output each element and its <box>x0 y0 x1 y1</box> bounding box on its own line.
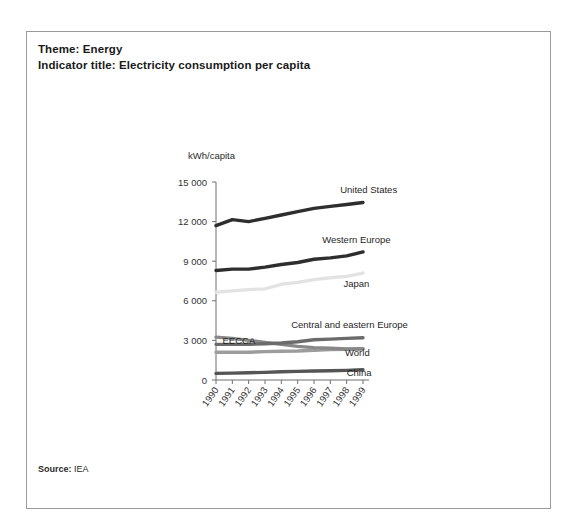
x-tick-label: 1996 <box>298 385 319 409</box>
figure-titles: Theme: Energy Indicator title: Electrici… <box>38 41 508 73</box>
x-tick-label: 1999 <box>347 385 368 409</box>
x-tick-label: 1990 <box>200 385 221 409</box>
y-tick-label: 3 000 <box>183 335 207 346</box>
series-label: Western Europe <box>322 234 390 245</box>
theme-line: Theme: Energy <box>38 41 508 57</box>
y-tick-label: 6 000 <box>183 295 207 306</box>
x-tick-label: 1992 <box>232 385 253 409</box>
series-line <box>216 202 363 225</box>
y-tick-label: 15 000 <box>178 177 207 188</box>
x-tick-label: 1998 <box>330 385 351 409</box>
series-line <box>216 370 363 374</box>
y-tick-label: 0 <box>202 375 207 386</box>
y-axis-unit-label: kWh/capita <box>188 150 236 161</box>
series-label: Japan <box>343 278 369 289</box>
series-label: China <box>347 367 373 378</box>
source-note: Source: IEA <box>38 464 89 474</box>
series-label: EECCA <box>223 335 256 346</box>
chart-area: kWh/capita03 0006 0009 00012 00015 00019… <box>27 89 550 419</box>
line-chart: kWh/capita03 0006 0009 00012 00015 00019… <box>27 89 550 419</box>
source-label: Source: <box>38 464 72 474</box>
figure-frame: Theme: Energy Indicator title: Electrici… <box>26 31 551 509</box>
x-tick-label: 1994 <box>265 385 286 409</box>
y-tick-label: 9 000 <box>183 256 207 267</box>
x-tick-label: 1995 <box>281 385 302 409</box>
x-tick-label: 1991 <box>216 385 237 409</box>
series-label: United States <box>340 184 397 195</box>
series-line <box>216 273 363 292</box>
source-value: IEA <box>74 464 89 474</box>
x-tick-label: 1993 <box>249 385 270 409</box>
x-tick-label: 1997 <box>314 385 335 409</box>
series-line <box>216 252 363 270</box>
screenshot-root: Theme: Energy Indicator title: Electrici… <box>0 0 579 525</box>
series-label: Central and eastern Europe <box>291 319 408 330</box>
y-tick-label: 12 000 <box>178 216 207 227</box>
indicator-title-line: Indicator title: Electricity consumption… <box>38 57 508 73</box>
series-label: World <box>345 347 370 358</box>
